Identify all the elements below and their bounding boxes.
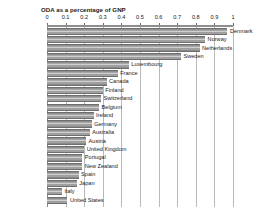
bar bbox=[47, 70, 118, 77]
x-tick-label: 0.1 bbox=[62, 14, 70, 20]
bar-row: Germany bbox=[47, 120, 233, 127]
bar-category-label: Netherlands bbox=[202, 45, 232, 52]
plot-area: DenmarkNorwayNetherlandsSwedenLuxembourg… bbox=[47, 27, 233, 207]
bar-category-label: United States bbox=[70, 197, 104, 204]
bar-category-label: New Zealand bbox=[85, 163, 118, 170]
bar-category-label: Luxembourg bbox=[131, 61, 162, 68]
bar-category-label: Ireland bbox=[96, 112, 113, 119]
bar-category-label: Sweden bbox=[183, 53, 203, 60]
bar bbox=[47, 146, 84, 153]
bar bbox=[47, 163, 82, 170]
bar bbox=[47, 53, 181, 60]
bar bbox=[47, 129, 90, 136]
bar-row: United Kingdom bbox=[47, 146, 233, 153]
chart-container: ODA as a percentage of GNP 00.10.20.30.4… bbox=[0, 0, 263, 211]
x-tick-label: 0.8 bbox=[192, 14, 200, 20]
x-tick-label: 0 bbox=[45, 14, 48, 20]
bar-category-label: Switzerland bbox=[103, 95, 132, 102]
bar-row: Switzerland bbox=[47, 95, 233, 102]
bar bbox=[47, 154, 82, 161]
bar-category-label: Italy bbox=[64, 188, 74, 195]
x-tick-label: 0.4 bbox=[118, 14, 126, 20]
x-tick-mark bbox=[233, 23, 234, 26]
bar-row: Netherlands bbox=[47, 44, 233, 51]
bar-row: Belgium bbox=[47, 104, 233, 111]
bar-row: Denmark bbox=[47, 28, 233, 35]
bar-category-label: Canada bbox=[109, 78, 129, 85]
bar bbox=[47, 36, 205, 43]
bar bbox=[47, 171, 79, 178]
bar-category-label: Norway bbox=[208, 36, 227, 43]
bar-category-label: Denmark bbox=[230, 28, 253, 35]
bar-category-label: United Kingdom bbox=[87, 146, 127, 153]
x-tick-label: 0.7 bbox=[173, 14, 181, 20]
bar bbox=[47, 188, 62, 195]
bar-category-label: Australia bbox=[92, 129, 114, 136]
bar-category-label: Spain bbox=[81, 171, 95, 178]
bar-row: Spain bbox=[47, 171, 233, 178]
bar-category-label: France bbox=[120, 70, 137, 77]
bar-category-label: Austria bbox=[89, 138, 106, 145]
bar bbox=[47, 28, 227, 35]
bar-category-label: Japan bbox=[79, 180, 94, 187]
bar-category-label: Belgium bbox=[102, 104, 122, 111]
bar-row: France bbox=[47, 70, 233, 77]
bar bbox=[47, 120, 92, 127]
bar-row: Sweden bbox=[47, 53, 233, 60]
bar-row: Portugal bbox=[47, 154, 233, 161]
bar-row: New Zealand bbox=[47, 163, 233, 170]
bar-row: Ireland bbox=[47, 112, 233, 119]
bar-row: Luxembourg bbox=[47, 61, 233, 68]
bar-row: Norway bbox=[47, 36, 233, 43]
bar-row: Australia bbox=[47, 129, 233, 136]
x-tick-label: 0.2 bbox=[80, 14, 88, 20]
x-tick-label: 0.5 bbox=[136, 14, 144, 20]
bar bbox=[47, 87, 103, 94]
bar bbox=[47, 78, 107, 85]
bar-row: United States bbox=[47, 197, 233, 204]
bar-category-label: Portugal bbox=[85, 154, 106, 161]
bar-row: Austria bbox=[47, 137, 233, 144]
bar bbox=[47, 61, 129, 68]
bar bbox=[47, 180, 77, 187]
x-tick-label: 1 bbox=[231, 14, 234, 20]
bar bbox=[47, 95, 101, 102]
bar bbox=[47, 112, 94, 119]
bar-category-label: Finland bbox=[105, 87, 123, 94]
bar bbox=[47, 137, 86, 144]
bar-row: Canada bbox=[47, 78, 233, 85]
x-tick-label: 0.6 bbox=[155, 14, 163, 20]
bar-row: Finland bbox=[47, 87, 233, 94]
chart-title: ODA as a percentage of GNP bbox=[41, 6, 126, 13]
bar bbox=[47, 104, 99, 111]
x-tick-label: 0.9 bbox=[211, 14, 219, 20]
x-tick-label: 0.3 bbox=[99, 14, 107, 20]
bar-row: Italy bbox=[47, 188, 233, 195]
bar-category-label: Germany bbox=[94, 121, 117, 128]
bar bbox=[47, 44, 200, 51]
gridline-1 bbox=[233, 27, 234, 207]
bar-row: Japan bbox=[47, 180, 233, 187]
bar bbox=[47, 197, 67, 204]
